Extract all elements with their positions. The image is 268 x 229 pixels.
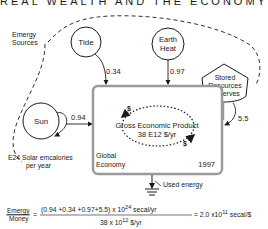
svg-text:Earth: Earth (159, 35, 177, 44)
tide-flow-arrow (95, 54, 106, 84)
gep-label: Gross Economic Product (116, 121, 200, 130)
page-title: REAL WEALTH AND THE ECONOMY (0, 0, 268, 7)
dollar-sign-right: $ (183, 140, 187, 148)
used-energy-leader (155, 181, 161, 186)
used-energy-label: Used energy (163, 181, 203, 189)
sun-source: Sun (23, 103, 59, 139)
sun-flow-value: 0.94 (71, 113, 86, 122)
svg-text:Heat: Heat (160, 44, 177, 53)
svg-text:(0.94 +0.34 +0.97+5.5) x 1024: (0.94 +0.34 +0.97+5.5) x 1024 secal/yr (41, 204, 157, 214)
earth-heat-flow-value: 0.97 (170, 67, 185, 76)
sun-caption: E24 Solar emcalories per year (8, 154, 75, 170)
svg-text:Money: Money (9, 215, 29, 223)
year-label: 1997 (198, 160, 215, 169)
tide-flow-value: 0.34 (106, 67, 121, 76)
svg-text:= 2.0 x1011 secal/$: = 2.0 x1011 secal/$ (194, 209, 252, 218)
svg-text:=: = (33, 211, 37, 218)
svg-text:38 x 1012 $/yr: 38 x 1012 $/yr (100, 217, 142, 227)
emergy-sources-label: Emergy Sources (12, 31, 38, 46)
svg-text:Stored: Stored (215, 74, 236, 81)
stored-flow-arrow (225, 103, 236, 125)
svg-text:Emergy: Emergy (7, 207, 30, 215)
tide-source: Tide (71, 27, 101, 57)
emergy-money-equation: Emergy Money = (0.94 +0.34 +0.97+5.5) x … (6, 204, 252, 227)
emergy-diagram: REAL WEALTH AND THE ECONOMY Emergy Sourc… (0, 0, 268, 229)
stored-flow-value: 5.5 (238, 114, 248, 123)
dollar-sign-left: $ (127, 105, 131, 113)
gep-value: 38 E12 $/yr (138, 130, 177, 139)
earth-heat-source: Earth Heat (152, 28, 184, 60)
heat-sink-icon (145, 175, 159, 195)
svg-text:Tide: Tide (78, 38, 94, 47)
svg-text:Sun: Sun (34, 117, 48, 126)
